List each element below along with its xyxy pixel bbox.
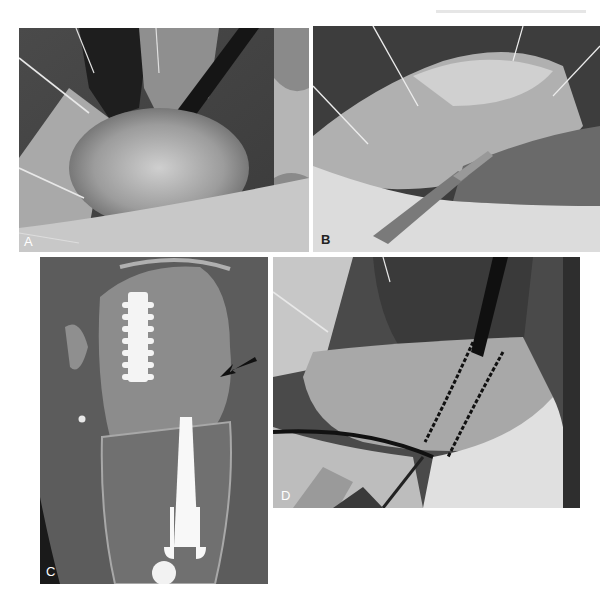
panel-label-a: A [24,235,33,248]
panel-label-c: C [46,565,55,578]
panel-label-b: B [321,233,330,246]
panel-b-photo: B [313,26,600,252]
panel-label-d: D [281,489,290,502]
running-header [436,0,586,4]
surgical-photo-image [313,26,600,252]
surgical-photo-image [19,28,309,252]
panel-a-photo: A [19,28,309,252]
surgical-photo-image [273,257,580,508]
panel-d-photo: D [273,257,580,508]
figure-caption-cutoff [66,588,616,592]
ct-scan-image [40,257,268,584]
panel-c-ct-scan: C [40,257,268,584]
